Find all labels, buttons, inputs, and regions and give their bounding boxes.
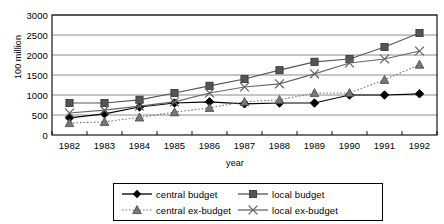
- square-marker-icon: [171, 89, 178, 96]
- data-point-square: [276, 67, 283, 74]
- square-marker-icon: [241, 75, 248, 82]
- data-point-square: [346, 55, 353, 62]
- legend-label-central-budget[interactable]: central budget: [156, 189, 218, 200]
- legend-label-local-ex-budget[interactable]: local ex-budget: [272, 205, 338, 216]
- legend-swatches: [114, 184, 382, 220]
- x-tick-1983: 1983: [88, 140, 122, 151]
- square-marker-icon: [206, 82, 213, 89]
- square-marker-icon: [101, 99, 108, 106]
- square-marker-icon: [381, 43, 388, 50]
- legend-label-central-ex-budget[interactable]: central ex-budget: [156, 205, 231, 216]
- data-point-square: [311, 58, 318, 65]
- square-marker-icon: [66, 99, 73, 106]
- x-tick-1988: 1988: [263, 140, 297, 151]
- legend-label-local-budget[interactable]: local budget: [272, 189, 324, 200]
- x-axis-title: year: [205, 158, 265, 168]
- chart-container: 100 million 3000 2500 2000 1500 1000 500…: [0, 0, 444, 224]
- x-tick-1991: 1991: [368, 140, 402, 151]
- x-tick-1985: 1985: [158, 140, 192, 151]
- data-point-square: [136, 96, 143, 103]
- data-point-square: [171, 89, 178, 96]
- x-tick-1986: 1986: [193, 140, 227, 151]
- x-tick-1992: 1992: [403, 140, 437, 151]
- x-tick-1984: 1984: [123, 140, 157, 151]
- diamond-marker-icon: [133, 190, 141, 198]
- square-marker-icon: [276, 67, 283, 74]
- data-point-square: [241, 75, 248, 82]
- x-tick-1989: 1989: [298, 140, 332, 151]
- x-tick-1982: 1982: [53, 140, 87, 151]
- square-marker-icon: [136, 96, 143, 103]
- x-tick-1987: 1987: [228, 140, 262, 151]
- data-point-square: [66, 99, 73, 106]
- square-marker-icon: [416, 29, 423, 36]
- data-point-square: [381, 43, 388, 50]
- square-marker-icon: [311, 58, 318, 65]
- x-tick-1990: 1990: [333, 140, 367, 151]
- legend: central budget local budget central ex-b…: [113, 183, 383, 221]
- square-marker-icon: [346, 55, 353, 62]
- data-point-square: [206, 82, 213, 89]
- data-point-square: [416, 29, 423, 36]
- square-marker-icon: [249, 190, 256, 197]
- data-point-square: [101, 99, 108, 106]
